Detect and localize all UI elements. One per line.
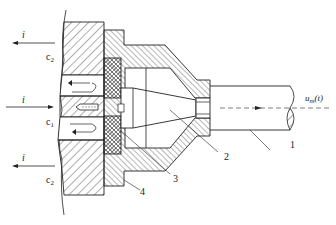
label-c2-bottom: c2	[46, 175, 54, 188]
nozzle-pipe	[196, 98, 210, 118]
wall-upper-block	[62, 22, 104, 75]
label-part-2: 2	[224, 152, 229, 162]
cross-section-drawing	[0, 0, 336, 225]
channel-c2-upper	[60, 75, 104, 96]
channel-c1-lower	[58, 117, 104, 140]
label-current-bottom: i	[22, 153, 25, 163]
label-velocity-arg: (t)	[315, 93, 324, 103]
electrode-cone	[121, 88, 196, 128]
label-part-4: 4	[140, 187, 145, 197]
label-current-top: i	[22, 30, 25, 40]
label-c2-top: c2	[46, 52, 54, 65]
insulator-lower	[104, 116, 121, 154]
label-velocity: um(t)	[305, 93, 323, 106]
label-c2-top-sub: 2	[50, 56, 54, 64]
label-part-3: 3	[173, 174, 178, 184]
label-c2-bottom-sub: 2	[50, 179, 54, 187]
leader-1	[250, 130, 270, 150]
leader-4	[124, 180, 140, 190]
insulator-upper	[104, 58, 121, 98]
label-c1: c1	[46, 117, 54, 130]
label-current-mid: i	[22, 95, 25, 105]
wall-lower-block	[58, 140, 104, 195]
diagram-canvas: i c2 i c1 i c2 um(t) 1 2 3 4	[0, 0, 336, 225]
label-part-1: 1	[290, 140, 295, 150]
label-c1-sub: 1	[50, 121, 54, 129]
